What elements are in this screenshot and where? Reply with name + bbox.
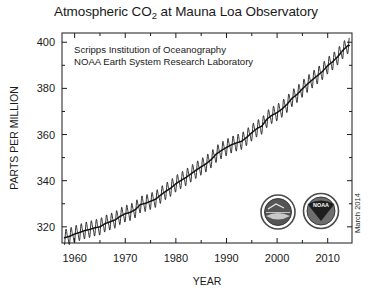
- x-tick-label: 1990: [214, 252, 238, 264]
- chart-figure: Atmospheric CO2 at Mauna Loa Observatory…: [0, 0, 372, 298]
- y-axis-label: PARTS PER MILLION: [8, 86, 20, 189]
- y-axis-tick-labels: 320340360380400: [37, 36, 55, 233]
- date-stamp: March 2014: [353, 193, 362, 233]
- y-tick-label: 380: [37, 82, 55, 94]
- annotation-line-2: NOAA Earth System Research Laboratory: [74, 56, 253, 67]
- x-tick-label: 1960: [62, 252, 86, 264]
- scripps-institution-seal: [261, 195, 295, 229]
- y-tick-label: 320: [37, 221, 55, 233]
- noaa-seal: NOAA: [304, 194, 339, 229]
- y-tick-label: 360: [37, 129, 55, 141]
- x-tick-label: 2010: [315, 252, 339, 264]
- x-axis-label: YEAR: [193, 275, 222, 287]
- x-tick-label: 2000: [265, 252, 289, 264]
- chart-canvas: 320340360380400 196019701980199020002010…: [0, 0, 372, 298]
- x-tick-label: 1970: [113, 252, 137, 264]
- y-tick-label: 340: [37, 175, 55, 187]
- x-tick-label: 1980: [164, 252, 188, 264]
- noaa-seal-label: NOAA: [313, 202, 329, 208]
- x-axis-tick-labels: 196019701980199020002010: [62, 252, 340, 264]
- annotation-line-1: Scripps Institution of Oceanography: [74, 44, 226, 55]
- y-tick-label: 400: [37, 36, 55, 48]
